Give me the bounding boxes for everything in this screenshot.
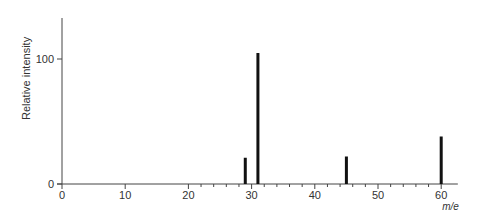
x-tick-label: 20 [182,189,194,201]
x-tick-label: 60 [435,189,447,201]
ticks: 01000102030405060m/e [36,53,460,212]
x-tick-label: 50 [372,189,384,201]
peak-bar [244,158,247,184]
x-tick-label: 40 [309,189,321,201]
peak-bar [345,157,348,185]
x-tick-label: 0 [59,189,65,201]
mass-spectrum-chart: 01000102030405060m/e [0,0,483,215]
bars [244,53,443,184]
y-tick-label: 100 [36,53,54,65]
y-tick-label: 0 [48,178,54,190]
peak-bar [440,137,443,185]
x-axis-label: m/e [442,201,459,212]
y-axis-label: Relative intensity [20,37,32,120]
x-tick-label: 10 [119,189,131,201]
peak-bar [256,53,259,184]
x-tick-label: 30 [245,189,257,201]
